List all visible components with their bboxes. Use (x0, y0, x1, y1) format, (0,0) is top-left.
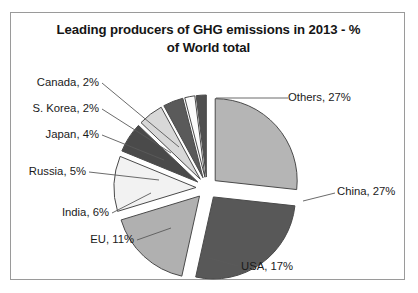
pie-label-skorea: S. Korea, 2% (32, 102, 99, 114)
pie-label-others: Others, 27% (288, 91, 351, 103)
pie-label-japan: Japan, 4% (46, 128, 99, 140)
pie-label-canada: Canada, 2% (37, 76, 99, 88)
pie-label-eu: EU, 11% (90, 233, 134, 245)
pie-slices-group (114, 95, 297, 279)
pie-plot-area: Others, 27% China, 27% USA, 17% EU, 11% … (11, 13, 406, 281)
leader-line-china (303, 193, 335, 201)
pie-label-india: India, 6% (62, 206, 109, 218)
pie-label-usa: USA, 17% (241, 260, 293, 272)
pie-chart-graphic: Others, 27% China, 27% USA, 17% EU, 11% … (11, 13, 406, 281)
pie-slice-others[interactable] (215, 99, 297, 190)
pie-label-china: China, 27% (337, 185, 395, 197)
pie-label-russia: Russia, 5% (29, 165, 86, 177)
chart-frame: Leading producers of GHG emissions in 20… (10, 12, 405, 280)
